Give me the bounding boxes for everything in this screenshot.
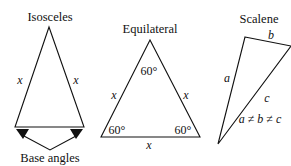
scalene-triangle-group: Scalene b a c a ≠ b ≠ c xyxy=(218,12,291,144)
scalene-side-b-label: b xyxy=(268,28,274,42)
isosceles-triangle-group: Isosceles x x Base angles xyxy=(15,10,84,165)
equilateral-left-angle: 60° xyxy=(109,123,126,137)
scalene-side-c-label: c xyxy=(264,91,270,105)
equilateral-top-angle: 60° xyxy=(141,64,158,78)
isosceles-title: Isosceles xyxy=(27,10,72,24)
equilateral-right-side-label: x xyxy=(182,88,189,102)
equilateral-triangle-group: Equilateral 60° 60° 60° x x x xyxy=(101,22,200,152)
isosceles-left-side-label: x xyxy=(16,73,23,87)
base-angles-caption: Base angles xyxy=(20,151,79,165)
base-angles-arrows xyxy=(24,136,76,150)
scalene-side-a-label: a xyxy=(224,71,230,85)
equilateral-right-angle: 60° xyxy=(175,123,192,137)
equilateral-left-side-label: x xyxy=(110,88,117,102)
scalene-inequality-label: a ≠ b ≠ c xyxy=(239,112,282,126)
base-angle-right-marker-icon xyxy=(70,129,83,139)
equilateral-bottom-side-label: x xyxy=(145,138,152,152)
equilateral-title: Equilateral xyxy=(123,22,178,36)
triangle-types-diagram: Isosceles x x Base angles Equilateral 60… xyxy=(0,0,291,166)
scalene-triangle xyxy=(218,37,291,144)
scalene-title: Scalene xyxy=(240,12,279,26)
isosceles-right-side-label: x xyxy=(72,73,79,87)
